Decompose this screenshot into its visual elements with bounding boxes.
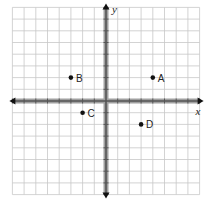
axes <box>9 3 203 198</box>
point-label-c: C <box>88 108 95 119</box>
point-label-b: B <box>76 73 83 84</box>
point-label-a: A <box>158 73 165 84</box>
point-label-d: D <box>146 119 153 130</box>
x-axis-label: x <box>195 105 201 117</box>
y-axis-label: y <box>111 3 117 15</box>
coordinate-plane: x y A B C D <box>0 0 206 201</box>
